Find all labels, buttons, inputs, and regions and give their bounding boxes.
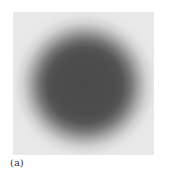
panel-label: (a) xyxy=(10,157,24,168)
blurred-disk-image xyxy=(13,12,154,155)
figure-panel xyxy=(13,12,154,155)
